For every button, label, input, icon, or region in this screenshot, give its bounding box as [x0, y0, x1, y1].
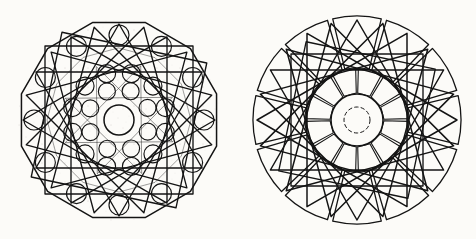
rosette-drawing — [0, 0, 476, 239]
plate-canvas — [0, 0, 476, 239]
